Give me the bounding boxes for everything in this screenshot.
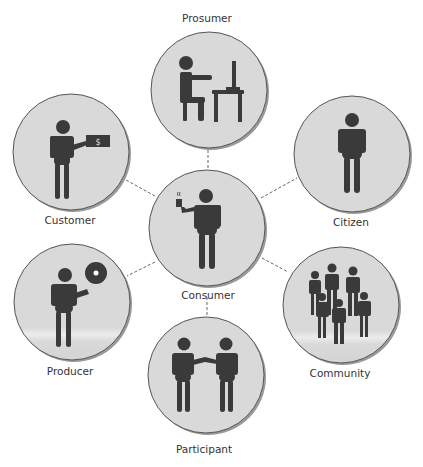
dollar-sign-icon: $ bbox=[95, 138, 100, 147]
label-customer: Customer bbox=[44, 214, 95, 226]
label-participant: Participant bbox=[176, 443, 232, 455]
node-prosumer[interactable] bbox=[150, 31, 268, 149]
label-producer: Producer bbox=[47, 365, 94, 377]
node-participant[interactable] bbox=[147, 316, 265, 434]
node-customer[interactable]: $ bbox=[12, 93, 130, 211]
node-producer[interactable] bbox=[13, 243, 131, 361]
label-community: Community bbox=[310, 367, 371, 379]
node-community[interactable] bbox=[282, 246, 400, 364]
role-diagram: Prosumer $ Customer bbox=[0, 0, 423, 467]
label-consumer: Consumer bbox=[181, 289, 235, 301]
node-citizen[interactable] bbox=[293, 95, 411, 213]
label-prosumer: Prosumer bbox=[182, 12, 232, 24]
label-citizen: Citizen bbox=[333, 216, 369, 228]
node-consumer[interactable] bbox=[148, 169, 266, 287]
disc-hole bbox=[94, 271, 99, 276]
